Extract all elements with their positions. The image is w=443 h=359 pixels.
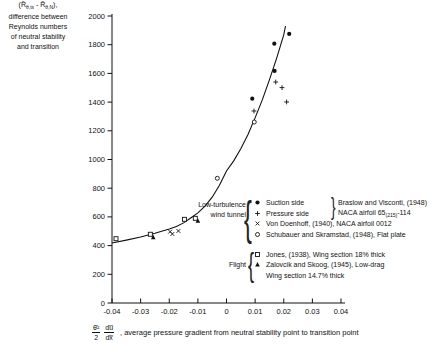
wind-tunnel-brace: { (244, 195, 252, 240)
x-axis-label-text: , average pressure gradient from neutral… (120, 328, 358, 337)
y-tick-label: 600 (92, 212, 105, 221)
y-axis-formula: (R̃θ,ts - R̃θ,N), (0, 0, 76, 12)
legend-group-flight-label: Flight (200, 261, 246, 268)
series-triangle-filled (151, 218, 200, 239)
suction-side-marker-icon (253, 198, 262, 207)
y-tick-label: 1200 (88, 126, 105, 135)
y-tick-label: 2000 (88, 12, 105, 21)
x-tick-label: -0.02 (161, 307, 178, 316)
legend-group-wind-tunnel-label: Low-turbulence wind tunnel (160, 200, 246, 219)
figure: 0200400600800100012001400160018002000-0.… (0, 0, 443, 359)
x-tick-label: -0.01 (189, 307, 206, 316)
series-plus (252, 80, 289, 114)
pressure-side-marker-icon (253, 209, 262, 218)
legend-item: Schubauer and Skramstad, (1948), Flat pl… (253, 229, 406, 240)
pressure-gradient-fraction-dudx: du̅ dx̅ (104, 323, 114, 342)
y-tick-label: 200 (92, 270, 105, 279)
x-tick-label: 0 (224, 307, 228, 316)
x-tick-label: 0.03 (305, 307, 320, 316)
chart-plot: 0200400600800100012001400160018002000-0.… (0, 0, 443, 359)
jones-marker-icon (253, 250, 262, 259)
legend-item: Wing section 14.7% thick (253, 270, 385, 280)
y-axis-label-line: and transition (0, 42, 76, 52)
legend-item: Jones, (1938), Wing section 18% thick (253, 250, 385, 260)
x-axis-label: θ̄² 2 du̅ dx̅ , average pressure gradien… (92, 323, 359, 342)
x-tick-label: 0.02 (276, 307, 291, 316)
y-tick-label: 1800 (88, 40, 105, 49)
legend-item: Zalovcik and Skoog, (1945), Low-drag (253, 260, 385, 270)
series-x (168, 229, 180, 236)
series-square-open (114, 216, 197, 240)
y-axis-label-line: difference between (0, 12, 76, 22)
y-axis-label-line: of neutral stability (0, 32, 76, 42)
x-tick-label: -0.04 (103, 307, 120, 316)
y-tick-label: 1600 (88, 69, 105, 78)
x-tick-label: 0.01 (248, 307, 263, 316)
x-tick-label: 0.04 (334, 307, 349, 316)
braslow-brace: } (331, 196, 336, 218)
zalovcik-marker-icon (253, 260, 262, 269)
y-tick-label: 400 (92, 241, 105, 250)
schubauer-marker-icon (253, 230, 262, 239)
y-axis-label-line: Reynolds numbers (0, 22, 76, 32)
y-tick-label: 800 (92, 184, 105, 193)
y-tick-label: 1000 (88, 155, 105, 164)
legend-reference: Braslow and Visconti, (1948) NACA airfoi… (338, 198, 427, 222)
von-doenhoff-marker-icon (253, 219, 262, 228)
x-tick-label: -0.03 (132, 307, 149, 316)
legend-flight-items: Jones, (1938), Wing section 18% thick Za… (253, 250, 385, 281)
series-circle-filled (250, 32, 291, 101)
pressure-gradient-fraction-theta: θ̄² 2 (92, 323, 100, 342)
y-tick-label: 1400 (88, 98, 105, 107)
y-axis-label: (R̃θ,ts - R̃θ,N), difference between Rey… (0, 0, 76, 52)
